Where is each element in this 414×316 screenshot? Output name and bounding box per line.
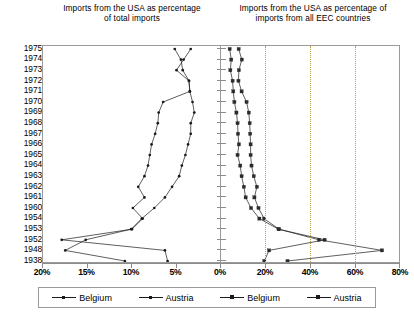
right-plot-area	[220, 45, 400, 263]
data-point	[189, 122, 192, 125]
x-axis-label: 10%	[111, 267, 151, 277]
data-point	[255, 185, 258, 188]
left-plot-area	[42, 45, 220, 263]
year-label: 1968	[24, 118, 42, 126]
data-point	[253, 196, 256, 199]
legend-square-marker-icon	[220, 293, 244, 302]
year-label: 1960	[24, 203, 42, 211]
legend-item-right-belgium[interactable]: Belgium	[220, 293, 280, 303]
data-point	[84, 238, 87, 241]
data-point	[124, 260, 127, 263]
data-point	[143, 175, 146, 178]
year-label: 1975	[24, 44, 42, 52]
data-point	[180, 164, 183, 167]
legend-item-left-belgium[interactable]: Belgium	[52, 293, 112, 303]
legend-dot-marker-icon	[139, 293, 163, 302]
data-point	[173, 48, 176, 51]
data-point	[237, 69, 240, 72]
data-point	[247, 111, 250, 114]
data-point	[189, 132, 192, 135]
data-point	[258, 217, 261, 220]
year-label: 1961	[24, 192, 42, 200]
data-point	[249, 153, 252, 156]
right-panel-title: Imports from the USA as percentage of im…	[228, 3, 398, 23]
chart-legend: BelgiumAustriaBelgiumAustria	[38, 287, 376, 308]
data-point	[171, 185, 174, 188]
data-point	[157, 111, 160, 114]
data-point	[141, 217, 144, 220]
data-point	[245, 100, 248, 103]
center-zero-axis	[220, 45, 221, 263]
data-point	[191, 101, 194, 104]
data-point	[147, 164, 150, 167]
center-axis-tick	[217, 249, 226, 250]
legend-label: Austria	[334, 293, 362, 303]
data-point	[249, 132, 252, 135]
gridline-40	[310, 46, 311, 262]
center-axis-tick	[217, 154, 226, 155]
data-point	[178, 175, 181, 178]
data-point	[233, 100, 236, 103]
legend-label: Belgium	[79, 293, 112, 303]
left-panel-title: Imports from the USA as percentage of to…	[62, 3, 202, 23]
data-point	[193, 111, 196, 114]
center-axis-tick	[217, 112, 226, 113]
year-label: 1965	[24, 150, 42, 158]
data-point	[380, 249, 383, 252]
year-axis: 1975197419731972197119701969196819671966…	[12, 45, 42, 263]
data-point	[189, 48, 192, 51]
data-point	[277, 228, 280, 231]
center-axis-tick	[217, 260, 226, 261]
center-axis-tick	[217, 196, 226, 197]
data-point	[175, 69, 178, 72]
x-axis-label: 80%	[380, 267, 414, 277]
x-axis-label: 20%	[245, 267, 285, 277]
center-axis-tick	[217, 239, 226, 240]
center-axis-tick	[217, 165, 226, 166]
legend-item-left-austria[interactable]: Austria	[139, 293, 194, 303]
center-axis-tick	[217, 133, 226, 134]
year-label: 1953	[24, 224, 42, 232]
year-label: 1962	[24, 182, 42, 190]
data-point	[188, 79, 191, 82]
x-axis-label: 60%	[335, 267, 375, 277]
left-plot-series	[43, 46, 220, 263]
center-axis-tick	[217, 175, 226, 176]
legend-square-marker-icon	[307, 293, 331, 302]
data-point	[154, 132, 157, 135]
data-point	[229, 69, 232, 72]
data-point	[164, 249, 167, 252]
data-point	[182, 58, 185, 61]
x-axis-label: 15%	[67, 267, 107, 277]
data-point	[143, 196, 146, 199]
year-label: 1954	[24, 213, 42, 221]
data-point	[180, 58, 183, 61]
center-axis-tick	[217, 48, 226, 49]
data-point	[187, 143, 190, 146]
year-label: 1948	[24, 245, 42, 253]
data-point	[240, 175, 243, 178]
data-point	[236, 132, 239, 135]
data-point	[240, 58, 243, 61]
data-point	[230, 58, 233, 61]
year-label: 1938	[24, 256, 42, 264]
center-axis-tick	[217, 228, 226, 229]
legend-label: Belgium	[247, 293, 280, 303]
legend-dot-marker-icon	[52, 293, 76, 302]
legend-item-right-austria[interactable]: Austria	[307, 293, 362, 303]
year-label: 1967	[24, 129, 42, 137]
center-axis-tick	[217, 207, 226, 208]
data-point	[184, 154, 187, 157]
data-point	[162, 101, 165, 104]
gridline-60	[355, 46, 356, 262]
data-point	[252, 175, 255, 178]
x-axis-label: 40%	[290, 267, 330, 277]
data-point	[237, 79, 240, 82]
data-point	[249, 143, 252, 146]
x-axis-label: 5%	[156, 267, 196, 277]
data-point	[257, 206, 260, 209]
data-point	[228, 47, 231, 50]
data-point	[148, 154, 151, 157]
data-point	[232, 90, 235, 93]
data-point	[237, 47, 240, 50]
